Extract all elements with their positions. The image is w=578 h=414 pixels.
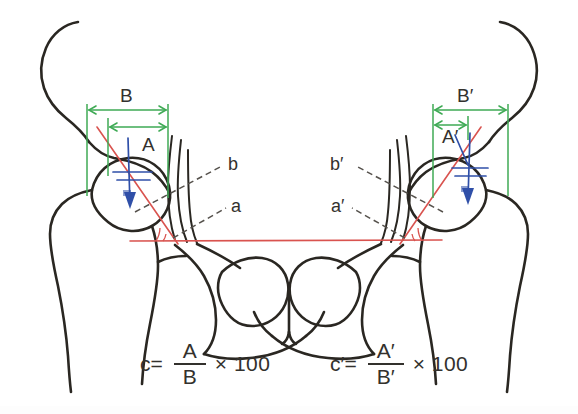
right-obturator-foramen-outline	[290, 258, 360, 326]
left-dimension-a-arrow	[110, 123, 166, 131]
right-red-angle-arc	[412, 228, 422, 241]
bottom-margin-strip	[0, 406, 578, 414]
formula-right-numerator: A′	[368, 340, 404, 363]
formula-left-lead: c=	[140, 352, 163, 376]
formula-left-fraction: A B	[174, 340, 206, 388]
left-red-angle-arc	[156, 228, 166, 241]
right-axis-a-label: a′	[331, 196, 345, 216]
pubic-symphysis-outline	[282, 290, 296, 344]
diagram-canvas: B A B′ A′ b a b′ a′	[0, 0, 578, 414]
formula-right: c′= A′ B′ × 100	[330, 340, 468, 388]
left-obturator-foramen-outline	[218, 258, 288, 326]
formula-left-denominator: B	[174, 365, 206, 388]
formula-left: c= A B × 100	[140, 340, 270, 388]
hip-measurement-diagram: B A B′ A′ b a b′ a′ c=	[0, 0, 578, 414]
left-femoral-neck-outline	[158, 256, 186, 262]
formula-right-fraction: A′ B′	[368, 340, 404, 388]
right-iliac-crest-outline	[489, 22, 537, 142]
formula-right-lead: c′=	[330, 352, 357, 376]
left-iliac-crest-outline	[41, 22, 89, 142]
left-axis-b-label: b	[228, 154, 238, 174]
right-dimension-a-label: A′	[442, 126, 459, 147]
left-dimension-a-label: A	[142, 134, 155, 155]
formula-left-tail: × 100	[215, 352, 271, 376]
left-dimension-b-arrow	[89, 106, 166, 114]
red-horizontal-reference-line	[130, 240, 442, 241]
right-axis-b-label: b′	[330, 154, 344, 174]
right-dimension-b-arrow	[435, 106, 506, 114]
right-dimension-b-label: B′	[457, 85, 474, 106]
formula-right-tail: × 100	[413, 352, 469, 376]
right-femoral-neck-outline	[392, 256, 420, 262]
formula-left-numerator: A	[174, 340, 206, 363]
formula-right-denominator: B′	[368, 365, 404, 388]
left-axis-a-label: a	[231, 196, 242, 216]
left-dimension-b-label: B	[120, 85, 133, 106]
